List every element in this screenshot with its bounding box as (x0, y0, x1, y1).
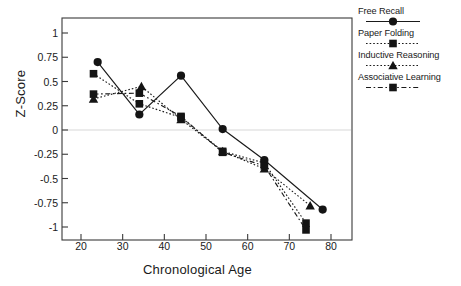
legend-line-sample (364, 83, 422, 92)
data-point (261, 162, 269, 170)
data-point (219, 125, 227, 133)
data-point (94, 58, 102, 66)
data-point (137, 82, 146, 90)
data-point (136, 89, 144, 97)
chart-figure: Z-Score Chronological Age 10.750.50.250-… (0, 0, 461, 286)
legend-label: Paper Folding (358, 28, 461, 39)
legend-entry[interactable]: Associative Learning (358, 72, 461, 92)
data-point (302, 226, 310, 234)
data-point (177, 72, 185, 80)
data-point (219, 149, 227, 157)
legend-line-sample (364, 61, 422, 70)
series-free-recall (94, 58, 327, 214)
legend-marker (389, 84, 397, 92)
series-line (94, 93, 307, 230)
series-associative-learning (90, 89, 310, 233)
data-point (90, 70, 98, 78)
data-point (319, 205, 327, 213)
data-point (90, 90, 98, 98)
data-point (135, 110, 143, 118)
legend-marker (389, 40, 397, 48)
legend-line-sample (364, 17, 422, 26)
legend-entry[interactable]: Free Recall (358, 6, 461, 26)
legend-entry[interactable]: Paper Folding (358, 28, 461, 48)
series-line (94, 86, 311, 205)
legend-marker (389, 17, 397, 25)
series-line (98, 62, 323, 209)
legend-line-sample (364, 39, 422, 48)
data-point (177, 113, 185, 121)
legend-label: Associative Learning (358, 72, 461, 83)
legend-entry[interactable]: Inductive Reasoning (358, 50, 461, 70)
data-point (136, 100, 144, 108)
series-inductive-reasoning (89, 82, 315, 210)
legend-label: Inductive Reasoning (358, 50, 461, 61)
chart-legend: Free RecallPaper FoldingInductive Reason… (358, 6, 461, 94)
legend-label: Free Recall (358, 6, 461, 17)
